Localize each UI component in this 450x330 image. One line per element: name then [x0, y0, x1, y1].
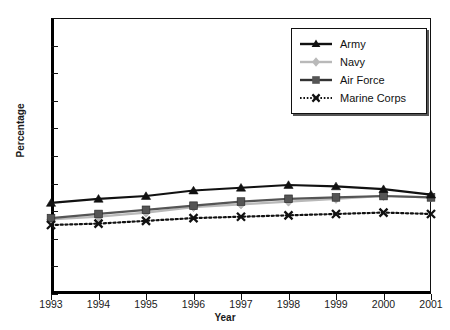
legend-label-army: Army: [340, 38, 366, 50]
legend-item-air-force[interactable]: Air Force: [299, 71, 418, 89]
army-marker-icon: [299, 37, 333, 51]
legend-item-navy[interactable]: Navy: [299, 53, 418, 71]
legend-label-air-force: Air Force: [340, 74, 385, 86]
navy-marker-icon: [299, 55, 333, 69]
air-force-marker-icon: [299, 73, 333, 87]
legend-label-marine-corps: Marine Corps: [340, 92, 406, 104]
x-axis-title: Year: [0, 312, 450, 323]
legend-item-army[interactable]: Army: [299, 35, 418, 53]
line-chart: Percentage 0102030405060708090100 199319…: [0, 0, 450, 330]
legend-label-navy: Navy: [340, 56, 365, 68]
chart-legend: Army Navy Air Force Marine Corps: [291, 28, 427, 114]
legend-item-marine-corps[interactable]: Marine Corps: [299, 89, 418, 107]
marine-corps-marker-icon: [299, 91, 333, 105]
series-marine-corps: [47, 209, 435, 229]
